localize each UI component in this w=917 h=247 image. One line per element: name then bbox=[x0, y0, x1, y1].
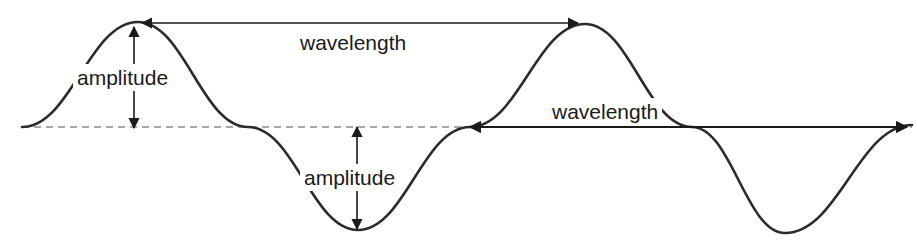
amplitude-bottom-label: amplitude bbox=[304, 167, 395, 188]
wave-diagram: wavelength wavelength amplitude amplitud… bbox=[0, 0, 917, 247]
amplitude-top-label: amplitude bbox=[77, 67, 168, 88]
wave-canvas bbox=[0, 0, 917, 247]
wavelength-top-label: wavelength bbox=[300, 32, 406, 53]
wavelength-bottom-label: wavelength bbox=[552, 101, 658, 122]
